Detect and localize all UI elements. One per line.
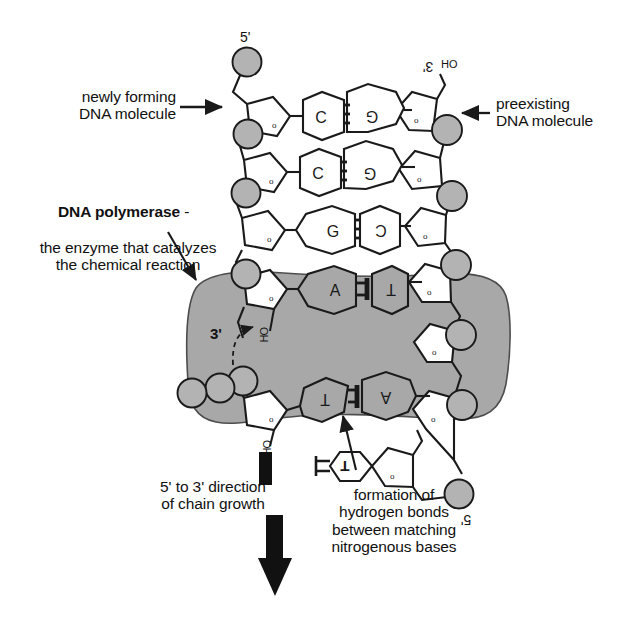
svg-text:o: o bbox=[427, 287, 432, 297]
label-5prime-top-left: 5' bbox=[240, 30, 250, 46]
svg-text:C: C bbox=[312, 165, 324, 182]
phosphate-circle bbox=[447, 390, 477, 420]
label-oh-enzyme-lower: OH bbox=[261, 440, 273, 455]
label-chain-growth: 5' to 3' direction of chain growth bbox=[120, 478, 306, 513]
svg-text:o: o bbox=[417, 174, 422, 184]
chain-growth-arrow bbox=[258, 452, 292, 596]
label-preexisting: preexisting DNA molecule bbox=[496, 95, 622, 130]
svg-text:o: o bbox=[269, 414, 274, 424]
base-letter-free: T bbox=[340, 458, 349, 475]
label-hydrogen-bonds: formation of hydrogen bonds between matc… bbox=[312, 486, 476, 555]
svg-text:C: C bbox=[375, 222, 387, 239]
label-oh-enzyme-upper: OH bbox=[258, 327, 270, 342]
svg-text:T: T bbox=[386, 281, 396, 298]
svg-text:T: T bbox=[320, 391, 330, 408]
svg-text:o: o bbox=[272, 120, 277, 130]
svg-text:G: G bbox=[366, 108, 378, 125]
polymerase-dash: - bbox=[180, 203, 189, 220]
phosphate-circle bbox=[432, 115, 462, 145]
label-3prime-top-right: 3' bbox=[423, 58, 433, 74]
phosphate-circle bbox=[178, 379, 207, 408]
svg-text:o: o bbox=[431, 414, 436, 424]
polymerase-description: the enzyme that catalyzes the chemical r… bbox=[28, 239, 228, 274]
label-dna-polymerase: DNA polymerase - the enzyme that catalyz… bbox=[28, 168, 228, 291]
base-pair-2: C G bbox=[287, 141, 415, 196]
base-pair-1: C G bbox=[290, 84, 412, 140]
phosphate-circle bbox=[233, 48, 262, 77]
label-5prime-bottom-right: 5' bbox=[461, 511, 471, 527]
svg-text:o: o bbox=[269, 176, 274, 186]
phosphate-circle bbox=[232, 179, 261, 208]
svg-text:o: o bbox=[390, 471, 395, 481]
svg-text:A: A bbox=[380, 389, 391, 406]
phosphate-circle bbox=[446, 320, 476, 350]
svg-text:G: G bbox=[364, 165, 376, 182]
phosphate-circle bbox=[234, 120, 263, 149]
svg-text:o: o bbox=[432, 347, 437, 357]
svg-text:A: A bbox=[330, 282, 341, 299]
svg-text:o: o bbox=[269, 293, 274, 303]
polymerase-title: DNA polymerase bbox=[58, 203, 180, 220]
svg-text:C: C bbox=[315, 109, 327, 126]
phosphate-circle bbox=[206, 374, 235, 403]
svg-text:o: o bbox=[423, 231, 428, 241]
phosphate-circle bbox=[437, 181, 467, 211]
svg-text:G: G bbox=[327, 223, 339, 240]
phosphate-circle bbox=[232, 260, 261, 289]
label-3prime-enzyme: 3' bbox=[210, 326, 222, 343]
svg-text:o: o bbox=[267, 234, 272, 244]
svg-text:o: o bbox=[414, 115, 419, 125]
base-shape-free bbox=[330, 452, 372, 481]
dna-replication-diagram: o o o o o bbox=[0, 0, 624, 622]
base-pair-3: G C bbox=[285, 206, 411, 254]
phosphate-circle bbox=[441, 250, 471, 280]
label-oh-top-right: OH bbox=[441, 58, 458, 70]
label-newly-forming: newly forming DNA molecule bbox=[36, 88, 176, 123]
